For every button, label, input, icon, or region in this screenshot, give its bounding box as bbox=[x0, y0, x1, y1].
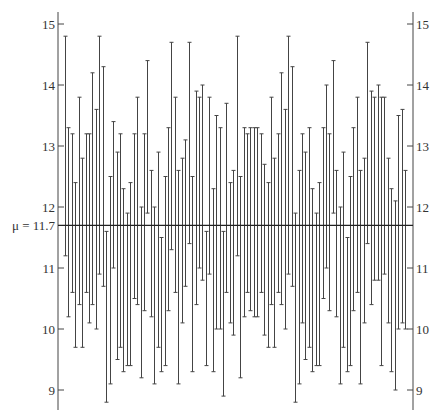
interval bbox=[205, 231, 209, 365]
interval bbox=[181, 158, 185, 323]
interval bbox=[308, 128, 312, 348]
interval bbox=[177, 170, 181, 384]
interval bbox=[318, 183, 322, 366]
interval bbox=[212, 189, 216, 372]
interval bbox=[157, 152, 161, 347]
interval bbox=[377, 85, 381, 280]
interval bbox=[136, 97, 140, 304]
interval bbox=[222, 231, 226, 396]
interval bbox=[236, 36, 240, 256]
interval bbox=[112, 122, 116, 268]
interval bbox=[232, 170, 236, 335]
interval bbox=[356, 97, 360, 292]
interval bbox=[342, 152, 346, 347]
interval bbox=[184, 140, 188, 286]
interval bbox=[284, 109, 288, 329]
interval bbox=[301, 134, 305, 323]
interval bbox=[215, 116, 219, 330]
interval bbox=[352, 128, 356, 311]
interval bbox=[270, 97, 274, 304]
interval bbox=[198, 97, 202, 268]
interval bbox=[129, 183, 133, 366]
right-tick-label: 12 bbox=[416, 200, 429, 215]
interval bbox=[67, 128, 71, 317]
interval bbox=[64, 36, 68, 256]
interval bbox=[170, 42, 174, 249]
interval bbox=[373, 97, 377, 280]
interval bbox=[208, 97, 212, 274]
interval bbox=[126, 213, 130, 366]
interval bbox=[146, 61, 150, 214]
left-tick-label: 10 bbox=[42, 322, 55, 337]
interval bbox=[359, 170, 363, 384]
right-tick-label: 13 bbox=[416, 139, 429, 154]
interval bbox=[239, 177, 243, 378]
interval bbox=[315, 213, 319, 366]
interval bbox=[164, 177, 168, 366]
right-tick-label: 15 bbox=[416, 17, 429, 32]
interval bbox=[246, 134, 250, 293]
interval bbox=[174, 97, 178, 292]
interval bbox=[219, 128, 223, 329]
interval-chart: 99101011111212131314141515 μ = 11.7 bbox=[0, 0, 441, 413]
interval bbox=[397, 116, 401, 330]
left-tick-label: 9 bbox=[49, 383, 56, 398]
interval bbox=[195, 91, 199, 305]
interval bbox=[322, 128, 326, 299]
left-tick-label: 14 bbox=[42, 78, 56, 93]
left-tick-label: 15 bbox=[42, 17, 55, 32]
interval bbox=[311, 189, 315, 372]
interval bbox=[150, 170, 154, 316]
interval bbox=[71, 134, 75, 293]
interval bbox=[78, 97, 82, 304]
interval bbox=[366, 42, 370, 243]
interval bbox=[95, 109, 99, 329]
interval bbox=[105, 231, 109, 402]
interval bbox=[349, 177, 353, 366]
interval bbox=[143, 134, 147, 311]
interval bbox=[85, 134, 89, 293]
confidence-intervals bbox=[64, 36, 408, 402]
interval bbox=[280, 73, 284, 305]
interval bbox=[88, 134, 92, 323]
interval bbox=[325, 85, 329, 268]
interval bbox=[363, 158, 367, 323]
interval bbox=[167, 128, 171, 311]
interval bbox=[273, 158, 277, 347]
interval bbox=[188, 42, 192, 243]
interval bbox=[267, 183, 271, 348]
interval bbox=[394, 201, 398, 390]
interval bbox=[291, 67, 295, 287]
interval bbox=[160, 238, 164, 372]
interval bbox=[191, 177, 195, 372]
interval bbox=[277, 134, 281, 293]
mu-label: μ = 11.7 bbox=[12, 218, 56, 233]
interval bbox=[263, 164, 267, 335]
interval bbox=[225, 103, 229, 292]
interval bbox=[401, 109, 405, 323]
interval bbox=[122, 189, 126, 372]
interval bbox=[256, 128, 260, 317]
interval bbox=[260, 134, 264, 293]
interval bbox=[116, 152, 120, 359]
interval bbox=[229, 183, 233, 323]
interval bbox=[335, 170, 339, 316]
interval bbox=[328, 134, 332, 311]
interval bbox=[346, 238, 350, 372]
interval bbox=[287, 36, 291, 274]
interval bbox=[109, 177, 113, 384]
left-tick-label: 11 bbox=[42, 261, 55, 276]
right-tick-label: 10 bbox=[416, 322, 429, 337]
interval bbox=[249, 128, 253, 311]
interval bbox=[74, 183, 78, 348]
interval bbox=[380, 97, 384, 365]
interval bbox=[140, 207, 144, 378]
interval bbox=[298, 170, 302, 384]
right-tick-label: 11 bbox=[416, 261, 429, 276]
interval bbox=[91, 73, 95, 305]
interval bbox=[370, 91, 374, 305]
interval bbox=[390, 189, 394, 372]
interval bbox=[243, 128, 247, 317]
left-tick-label: 13 bbox=[42, 139, 55, 154]
interval bbox=[133, 134, 137, 299]
